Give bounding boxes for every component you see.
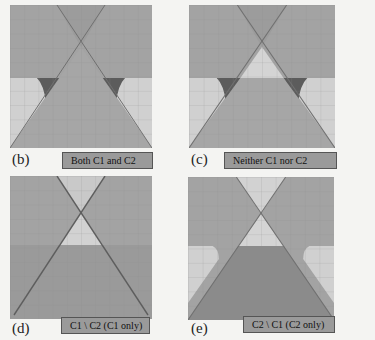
panel-tag: (d) (12, 320, 30, 337)
panel-tag: (c) (191, 151, 208, 168)
panel-b-both (10, 5, 152, 148)
panel-caption: C2 \ C1 (C2 only) (243, 316, 335, 333)
panel-d-c1-only (10, 176, 152, 319)
region-plot-c (189, 5, 335, 148)
panel-tag: (b) (12, 151, 30, 168)
panel-caption: Both C1 and C2 (62, 152, 153, 169)
region-plot-e (188, 177, 334, 320)
region-plot-b (10, 5, 152, 148)
panel-c-neither (189, 5, 335, 148)
panel-caption: Neither C1 nor C2 (224, 152, 337, 169)
panel-caption: C1 \ C2 (C1 only) (61, 317, 150, 334)
panel-e-c2-only (188, 177, 334, 320)
region-plot-d (10, 176, 152, 319)
panel-tag: (e) (191, 320, 208, 337)
